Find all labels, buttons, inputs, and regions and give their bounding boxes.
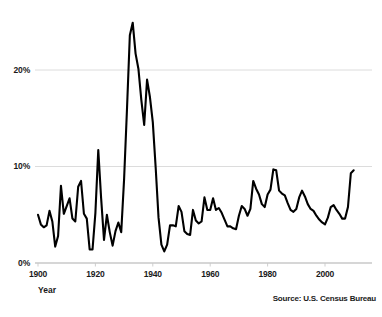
x-axis-tick-label-1940: 1940 xyxy=(133,270,173,279)
unemployment-rate-chart: 20% 10% 0% 1900 1920 1940 1960 1980 2000… xyxy=(0,0,382,317)
x-axis-tick-label-1920: 1920 xyxy=(75,270,115,279)
y-axis-tick-label-20: 20% xyxy=(2,66,30,75)
gridlines xyxy=(35,70,372,263)
data-line-unemployment-rate xyxy=(38,23,354,252)
y-axis-tick-label-0: 0% xyxy=(2,259,30,268)
x-axis-tick-label-1900: 1900 xyxy=(18,270,58,279)
x-axis-tick-label-1980: 1980 xyxy=(248,270,288,279)
x-axis-title: Year xyxy=(22,285,72,295)
x-axis-tick-label-1960: 1960 xyxy=(190,270,230,279)
source-note: Source: U.S. Census Bureau xyxy=(273,294,376,303)
y-axis-tick-label-10: 10% xyxy=(2,162,30,171)
x-axis-tick-label-2000: 2000 xyxy=(305,270,345,279)
